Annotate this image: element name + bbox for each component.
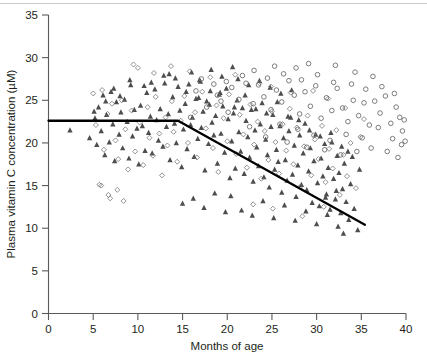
data-point-diamond <box>345 174 350 179</box>
data-point-circle <box>274 88 279 93</box>
y-tick-label: 25 <box>25 94 38 106</box>
data-point-triangle <box>67 127 72 132</box>
data-point-circle <box>219 99 224 104</box>
data-point-circle <box>383 94 388 99</box>
data-point-triangle <box>202 167 207 172</box>
y-tick-label: 5 <box>32 265 38 277</box>
data-point-triangle <box>314 221 319 226</box>
data-point-circle <box>367 123 372 128</box>
data-point-diamond <box>160 173 165 178</box>
data-point-diamond <box>319 123 324 128</box>
data-point-triangle <box>183 101 188 106</box>
data-point-triangle <box>243 118 248 123</box>
data-point-triangle <box>211 132 216 137</box>
data-point-triangle <box>158 106 163 111</box>
data-point-triangle <box>267 184 272 189</box>
data-point-triangle <box>162 80 167 85</box>
data-point-circle <box>319 116 324 121</box>
data-point-triangle <box>279 189 284 194</box>
scatter-points-layer <box>67 61 407 235</box>
data-point-diamond <box>175 159 180 164</box>
data-point-triangle <box>357 166 362 171</box>
data-point-diamond <box>169 99 174 104</box>
y-tick-label: 10 <box>25 222 38 234</box>
data-point-triangle <box>230 64 235 69</box>
data-point-diamond <box>237 112 242 117</box>
plot-axes <box>48 15 406 314</box>
data-point-triangle <box>249 107 254 112</box>
data-point-triangle <box>345 149 350 154</box>
data-point-triangle <box>252 127 257 132</box>
data-point-diamond <box>171 129 176 134</box>
data-point-triangle <box>170 94 175 99</box>
data-point-triangle <box>218 131 223 136</box>
data-point-circle <box>252 68 257 73</box>
series-triangle-markers <box>67 64 362 236</box>
data-point-triangle <box>208 88 213 93</box>
data-point-triangle <box>152 86 157 91</box>
data-point-circle <box>335 86 340 91</box>
data-point-circle <box>396 155 401 160</box>
data-point-triangle <box>250 213 255 218</box>
data-point-triangle <box>102 152 107 157</box>
data-point-triangle <box>232 104 237 109</box>
data-point-triangle <box>264 110 269 115</box>
data-point-circle <box>212 82 217 87</box>
data-point-triangle <box>191 195 196 200</box>
data-point-triangle <box>209 120 214 125</box>
data-point-circle <box>281 72 286 77</box>
data-point-triangle <box>233 166 238 171</box>
data-point-triangle <box>132 107 137 112</box>
data-point-triangle <box>228 193 233 198</box>
data-point-triangle <box>278 91 283 96</box>
data-point-triangle <box>107 139 112 144</box>
data-point-triangle <box>292 143 297 148</box>
data-point-triangle <box>141 83 146 88</box>
x-tick-label: 40 <box>400 323 413 335</box>
data-point-triangle <box>134 126 139 131</box>
data-point-diamond <box>135 65 140 70</box>
data-point-diamond <box>113 138 118 143</box>
data-point-diamond <box>284 148 289 153</box>
data-point-diamond <box>287 106 292 111</box>
data-point-diamond <box>311 88 316 93</box>
data-point-diamond <box>323 180 328 185</box>
data-point-circle <box>372 99 377 104</box>
y-tick-label: 0 <box>32 308 38 320</box>
data-point-diamond <box>327 146 332 151</box>
data-point-triangle <box>87 135 92 140</box>
data-point-circle <box>244 81 249 86</box>
data-point-diamond <box>153 94 158 99</box>
data-point-triangle <box>318 133 323 138</box>
data-point-circle <box>303 89 308 94</box>
data-point-triangle <box>99 128 104 133</box>
data-point-triangle <box>293 194 298 199</box>
data-point-diamond <box>121 198 126 203</box>
data-point-triangle <box>142 148 147 153</box>
data-point-circle <box>292 93 297 98</box>
data-point-triangle <box>96 104 101 109</box>
data-point-triangle <box>307 127 312 132</box>
data-point-triangle <box>293 218 298 223</box>
data-point-triangle <box>120 145 125 150</box>
data-point-triangle <box>122 97 127 102</box>
x-tick-label: 30 <box>310 323 323 335</box>
data-point-circle <box>394 105 399 110</box>
y-axis-title: Plasma vitamin C concentration (µM) <box>5 69 17 258</box>
data-point-triangle <box>111 85 116 90</box>
data-point-triangle <box>173 75 178 80</box>
data-point-diamond <box>233 72 238 77</box>
data-point-diamond <box>251 202 256 207</box>
y-axis-tick-labels: 05101520253035 <box>25 9 38 320</box>
x-axis-title: Months of age <box>191 340 264 352</box>
data-point-diamond <box>126 167 131 172</box>
x-tick-label: 15 <box>176 323 189 335</box>
data-point-triangle <box>296 117 301 122</box>
data-point-diamond <box>115 187 120 192</box>
data-point-diamond <box>266 157 271 162</box>
data-point-diamond <box>330 166 335 171</box>
data-point-circle <box>371 74 376 79</box>
data-point-circle <box>346 119 351 124</box>
data-point-circle <box>397 115 402 120</box>
data-point-circle <box>344 132 349 137</box>
